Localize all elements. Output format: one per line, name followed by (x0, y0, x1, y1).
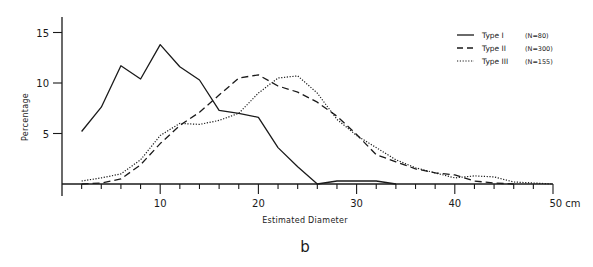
x-tick-label: 20 (252, 198, 265, 209)
legend-label: Type II (481, 44, 506, 53)
series-type-ii (82, 75, 514, 184)
series-type-iii (82, 76, 553, 184)
series-line (82, 75, 514, 184)
x-ticks: 1020304050 cm (82, 184, 581, 209)
y-ticks: 51015 (36, 28, 62, 140)
x-tick-label: 30 (350, 198, 363, 209)
x-tick-label: 10 (154, 198, 167, 209)
legend-item: Type II(N=300) (457, 44, 553, 53)
y-tick-label: 15 (36, 28, 49, 39)
legend-item: Type III(N=155) (457, 57, 553, 66)
x-tick-label: 50 cm (549, 198, 580, 209)
x-tick-label: 40 (448, 198, 461, 209)
legend-n-label: (N=300) (525, 45, 553, 53)
y-tick-label: 10 (36, 78, 49, 89)
series-line (82, 76, 553, 184)
legend-label: Type I (481, 31, 504, 40)
legend: Type I(N=80)Type II(N=300)Type III(N=155… (457, 31, 553, 66)
y-axis-title: Percentage (21, 93, 30, 141)
legend-n-label: (N=80) (525, 32, 549, 40)
line-chart: 1020304050 cm 51015 Type I(N=80)Type II(… (0, 0, 593, 267)
legend-label: Type III (481, 57, 508, 66)
panel-label: b (300, 238, 310, 256)
legend-item: Type I(N=80) (457, 31, 549, 40)
series-type-i (82, 45, 396, 184)
x-axis-title: Estimated Diameter (262, 216, 348, 225)
legend-n-label: (N=155) (525, 58, 553, 66)
y-tick-label: 5 (43, 129, 49, 140)
series-line (82, 45, 396, 184)
